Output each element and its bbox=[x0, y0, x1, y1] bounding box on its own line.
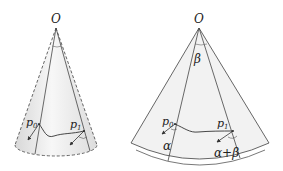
cone-figure: O p0 p1 bbox=[15, 12, 97, 156]
sector-angle-beta-label: β bbox=[193, 52, 201, 66]
sector-alpha-label: α bbox=[163, 139, 171, 153]
sector-apex-label: O bbox=[194, 12, 204, 26]
sector-surface bbox=[131, 28, 269, 159]
unrolled-sector-figure: O β p0 p1 α α+β bbox=[131, 12, 269, 165]
diagram-canvas: O p0 p1 O β p0 p1 α α+β bbox=[0, 0, 283, 171]
sector-alpha-plus-beta-label: α+β bbox=[214, 146, 239, 160]
cone-apex-label: O bbox=[51, 12, 61, 26]
